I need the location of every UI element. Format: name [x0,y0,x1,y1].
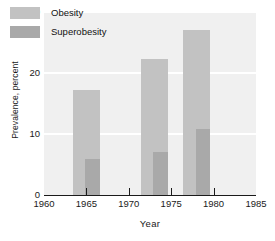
x-tick-label-1980: 1980 [194,198,234,209]
legend-item-obesity: Obesity [10,6,140,19]
x-tick-label-1970: 1970 [109,198,149,209]
legend-label-superobesity: Superobesity [51,26,106,38]
x-tick-label-1985: 1985 [236,198,275,209]
legend-swatch-obesity [10,7,40,19]
legend-label-obesity: Obesity [51,7,83,19]
x-tick-mark-1975 [171,188,172,196]
x-tick-mark-1970 [129,188,130,196]
legend-swatch-superobesity [10,26,40,38]
legend-item-superobesity: Superobesity [10,25,140,38]
x-tick-label-1960: 1960 [24,198,64,209]
x-tick-mark-1965 [86,188,87,196]
x-axis-label: Year [44,218,256,229]
x-tick-label-1965: 1965 [66,198,106,209]
bar-chart-figure: Prevalence, percent 0102030 196019651970… [0,0,275,241]
x-tick-mark-1980 [214,188,215,196]
chart-legend: ObesitySuperobesity [10,6,140,44]
x-tick-label-1975: 1975 [151,198,191,209]
